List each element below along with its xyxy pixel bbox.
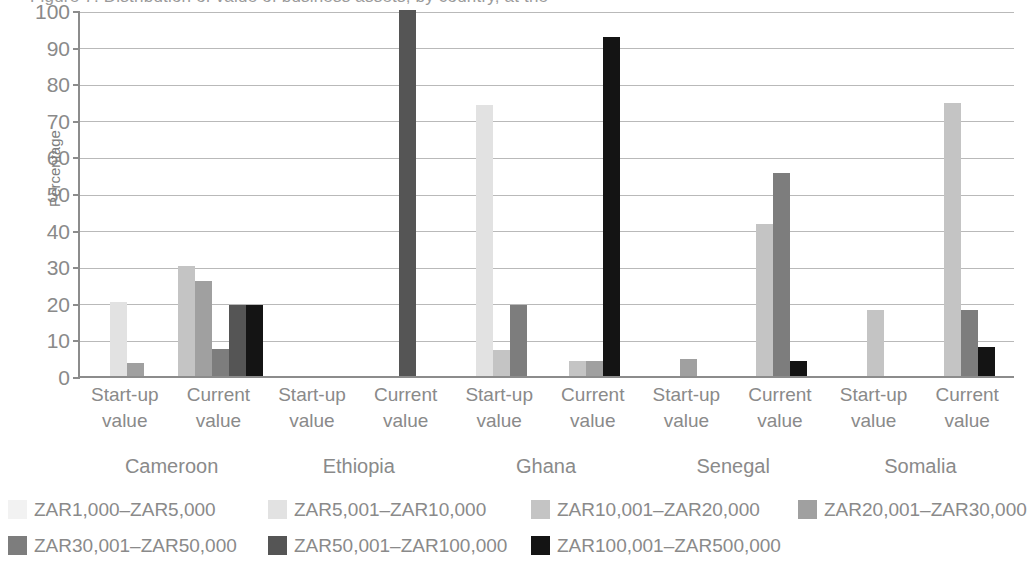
- x-axis-tick-label: Currentvalue: [733, 382, 827, 434]
- x-axis-group-label: Ethiopia: [265, 455, 452, 478]
- bar-group-bars: [922, 12, 1016, 376]
- legend-label: ZAR30,001–ZAR50,000: [34, 536, 237, 555]
- bar-group-bars: [735, 12, 829, 376]
- bar: [867, 310, 884, 376]
- x-axis-tick-label-line2: value: [920, 408, 1014, 434]
- chart-title: Figure 7: Distribution of value of busin…: [30, 0, 548, 7]
- x-axis-group-labels: CameroonEthiopiaGhanaSenegalSomalia: [78, 455, 1014, 489]
- x-axis-group-label: Somalia: [827, 455, 1014, 478]
- bar-group-bars: [174, 12, 268, 376]
- y-axis-tick-mark: [73, 377, 80, 379]
- bar: [246, 305, 263, 376]
- legend-item[interactable]: ZAR5,001–ZAR10,000: [268, 500, 486, 519]
- plot-area: [78, 12, 1014, 378]
- bar-group-bars: [548, 12, 642, 376]
- bar-group-bars: [267, 12, 361, 376]
- x-axis-tick-label-line1: Current: [546, 382, 640, 408]
- legend-label: ZAR1,000–ZAR5,000: [34, 500, 216, 519]
- bar-group: [548, 12, 642, 376]
- x-axis-group-label: Ghana: [452, 455, 639, 478]
- bar: [944, 103, 961, 376]
- legend-row: ZAR30,001–ZAR50,000ZAR50,001–ZAR100,000Z…: [8, 536, 1022, 572]
- legend-item[interactable]: ZAR30,001–ZAR50,000: [8, 536, 237, 555]
- bar-group: [829, 12, 923, 376]
- chart-legend: ZAR1,000–ZAR5,000ZAR5,001–ZAR10,000ZAR10…: [8, 500, 1022, 572]
- bar-group: [454, 12, 548, 376]
- bar-group-bars: [361, 12, 455, 376]
- x-axis-tick-label-line1: Start-up: [265, 382, 359, 408]
- x-axis-tick-label: Currentvalue: [546, 382, 640, 434]
- y-axis-tick-label: 10: [26, 330, 70, 351]
- x-axis-group-label: Senegal: [640, 455, 827, 478]
- bar-group: [642, 12, 736, 376]
- x-axis-tick-label: Currentvalue: [920, 382, 1014, 434]
- x-axis-tick-label-line1: Current: [920, 382, 1014, 408]
- legend-label: ZAR20,001–ZAR30,000: [824, 500, 1027, 519]
- x-axis-tick-label: Start-upvalue: [78, 382, 172, 434]
- x-axis-group-label: Cameroon: [78, 455, 265, 478]
- y-axis-tick-mark: [73, 231, 80, 233]
- bar: [476, 105, 493, 376]
- x-axis-tick-label-line1: Start-up: [452, 382, 546, 408]
- x-axis-tick-label-line1: Current: [733, 382, 827, 408]
- y-axis-tick-mark: [73, 48, 80, 50]
- x-axis-tick-label-line2: value: [546, 408, 640, 434]
- bar: [212, 349, 229, 376]
- x-axis-tick-label-line2: value: [265, 408, 359, 434]
- legend-swatch-icon: [531, 536, 550, 555]
- bar-group: [922, 12, 1016, 376]
- bar: [961, 310, 978, 376]
- bar: [569, 361, 586, 376]
- bar-group: [361, 12, 455, 376]
- x-axis-tick-label-line1: Start-up: [827, 382, 921, 408]
- legend-item[interactable]: ZAR100,001–ZAR500,000: [531, 536, 781, 555]
- bar-group: [174, 12, 268, 376]
- y-axis-tick-mark: [73, 194, 80, 196]
- legend-item[interactable]: ZAR50,001–ZAR100,000: [268, 536, 507, 555]
- legend-item[interactable]: ZAR1,000–ZAR5,000: [8, 500, 216, 519]
- bar: [178, 266, 195, 376]
- legend-swatch-icon: [798, 500, 817, 519]
- x-axis-tick-label-line2: value: [78, 408, 172, 434]
- legend-item[interactable]: ZAR20,001–ZAR30,000: [798, 500, 1027, 519]
- x-axis-tick-label: Start-upvalue: [827, 382, 921, 434]
- bar: [603, 37, 620, 376]
- y-axis-tick-label: 100: [26, 1, 70, 22]
- y-axis-tick-mark: [73, 84, 80, 86]
- legend-swatch-icon: [8, 536, 27, 555]
- bar-group-bars: [454, 12, 548, 376]
- x-axis-tick-label-line2: value: [733, 408, 827, 434]
- x-axis-tick-label-line1: Start-up: [78, 382, 172, 408]
- bar: [773, 173, 790, 376]
- legend-row: ZAR1,000–ZAR5,000ZAR5,001–ZAR10,000ZAR10…: [8, 500, 1022, 536]
- bar: [586, 361, 603, 376]
- x-axis-tick-labels: Start-upvalueCurrentvalueStart-upvalueCu…: [78, 382, 1014, 444]
- y-axis-tick-mark: [73, 340, 80, 342]
- legend-swatch-icon: [268, 536, 287, 555]
- x-axis-tick-label: Start-upvalue: [640, 382, 734, 434]
- x-axis-tick-label-line2: value: [640, 408, 734, 434]
- bar: [493, 350, 510, 376]
- bar: [756, 224, 773, 376]
- bar-group-bars: [80, 12, 174, 376]
- y-axis-tick-label: 80: [26, 74, 70, 95]
- y-axis-tick-mark: [73, 267, 80, 269]
- bar: [680, 359, 697, 376]
- bar: [110, 302, 127, 376]
- legend-label: ZAR5,001–ZAR10,000: [294, 500, 486, 519]
- y-axis-tick-label: 0: [26, 367, 70, 388]
- bar-group: [267, 12, 361, 376]
- bar: [229, 305, 246, 376]
- bar-group-bars: [829, 12, 923, 376]
- legend-swatch-icon: [8, 500, 27, 519]
- bar: [399, 10, 416, 376]
- x-axis-tick-label-line1: Current: [359, 382, 453, 408]
- y-axis-title: Percentage: [46, 109, 63, 229]
- legend-item[interactable]: ZAR10,001–ZAR20,000: [531, 500, 760, 519]
- x-axis-tick-label-line2: value: [172, 408, 266, 434]
- legend-label: ZAR100,001–ZAR500,000: [557, 536, 781, 555]
- bar: [790, 361, 807, 376]
- y-axis-tick-mark: [73, 11, 80, 13]
- x-axis-tick-label-line2: value: [452, 408, 546, 434]
